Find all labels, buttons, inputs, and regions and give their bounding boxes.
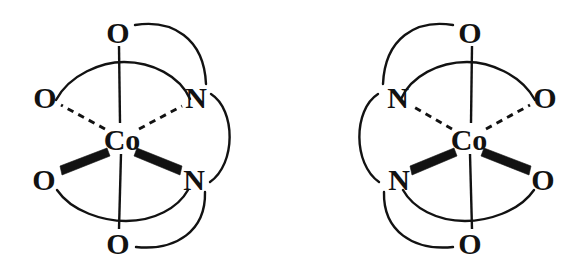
bond-co-to-back-right-oxygen-right bbox=[486, 105, 530, 129]
bond-co-to-back-left-nitrogen-right bbox=[412, 106, 452, 129]
structure-diagram: O O N O N O Co O bbox=[0, 0, 582, 272]
atom-label-oxygen-back-right-right: O bbox=[533, 81, 556, 114]
atom-label-oxygen-front-left-left: O bbox=[32, 163, 55, 196]
figure-canvas: O O N O N O Co O bbox=[0, 0, 582, 272]
coordination-sphere-lower-arc-left bbox=[57, 190, 188, 221]
atom-label-oxygen-axial-bottom-right: O bbox=[458, 227, 481, 260]
atom-label-oxygen-back-left-left: O bbox=[33, 81, 56, 114]
coordination-sphere-lower-arc-right bbox=[403, 190, 534, 221]
atom-label-cobalt-center-right: Co bbox=[451, 123, 488, 156]
coordination-sphere-upper-arc-left bbox=[56, 62, 190, 100]
bond-co-to-top-oxygen-left bbox=[119, 46, 120, 123]
bond-co-to-back-left-oxygen-left bbox=[61, 105, 105, 129]
chelate-bridge-lower-nitrogen-to-bottom-oxygen-right bbox=[384, 192, 453, 248]
bond-co-to-front-right-oxygen-right bbox=[481, 148, 531, 175]
chelate-bridge-upper-nitrogen-to-lower-nitrogen-right bbox=[359, 94, 379, 182]
structure-right: O N O N O O Co bbox=[359, 16, 556, 260]
chelate-bridge-top-oxygen-to-upper-nitrogen-right bbox=[383, 24, 453, 84]
structure-left: O O N O N O Co bbox=[32, 16, 229, 260]
bond-co-to-bottom-oxygen-left bbox=[119, 154, 121, 229]
bond-co-to-top-oxygen-right bbox=[471, 46, 472, 123]
bond-co-to-front-right-nitrogen-left bbox=[134, 148, 182, 175]
atom-label-oxygen-axial-top-left: O bbox=[106, 16, 129, 49]
bond-co-to-front-left-oxygen-left bbox=[60, 148, 110, 175]
atom-label-oxygen-front-right-right: O bbox=[531, 163, 554, 196]
atom-label-nitrogen-back-right-left: N bbox=[185, 81, 207, 114]
chelate-bridge-upper-nitrogen-to-lower-nitrogen-left bbox=[210, 94, 230, 182]
atom-label-nitrogen-back-left-right: N bbox=[387, 81, 409, 114]
bond-co-to-back-right-nitrogen-left bbox=[139, 106, 182, 129]
bond-co-to-bottom-oxygen-right bbox=[470, 154, 472, 229]
atom-label-oxygen-axial-bottom-left: O bbox=[106, 227, 129, 260]
atom-label-cobalt-center-left: Co bbox=[104, 123, 141, 156]
coordination-sphere-upper-arc-right bbox=[401, 62, 535, 100]
atom-label-oxygen-axial-top-right: O bbox=[458, 16, 481, 49]
atom-label-nitrogen-front-left-right: N bbox=[388, 163, 410, 196]
atom-label-nitrogen-front-right-left: N bbox=[183, 163, 205, 196]
